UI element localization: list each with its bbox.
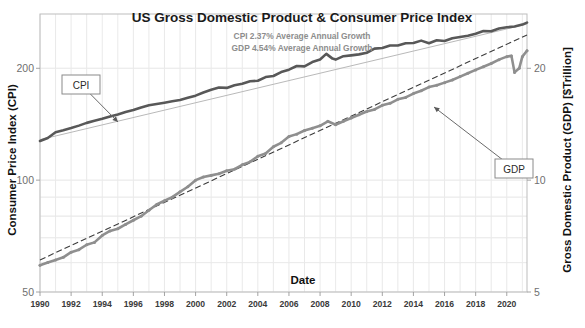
x-tick-label: 1998 <box>155 299 174 309</box>
chart-title: US Gross Domestic Product & Consumer Pri… <box>132 10 473 25</box>
x-tick-label: 1994 <box>93 299 112 309</box>
y-tick-label-right: 5 <box>534 286 540 298</box>
x-tick-label: 2018 <box>466 299 485 309</box>
callout-label: CPI <box>73 80 90 91</box>
x-tick-label: 2014 <box>404 299 423 309</box>
x-tick-label: 2012 <box>373 299 392 309</box>
y-axis-title-right: Gross Domestic Product (GDP) [$Trillion] <box>561 47 573 273</box>
x-tick-label: 2006 <box>279 299 298 309</box>
x-tick-label: 2010 <box>342 299 361 309</box>
chart-subtitle-gdp: GDP 4.54% Average Annual Growth <box>232 43 373 53</box>
chart-subtitle-cpi: CPI 2.37% Average Annual Growth <box>234 31 371 41</box>
x-tick-label: 1992 <box>62 299 81 309</box>
y-tick-label-left: 200 <box>16 62 34 74</box>
y-tick-label-left: 50 <box>22 286 34 298</box>
y-tick-label-right: 20 <box>534 62 546 74</box>
x-tick-label: 2020 <box>497 299 516 309</box>
x-tick-label: 1996 <box>124 299 143 309</box>
x-tick-label: 2000 <box>186 299 205 309</box>
x-tick-label: 2004 <box>248 299 267 309</box>
x-tick-label: 2002 <box>217 299 236 309</box>
y-tick-label-right: 10 <box>534 174 546 186</box>
x-axis-title: Date <box>291 274 316 286</box>
x-tick-label: 2008 <box>311 299 330 309</box>
x-tick-label: 1990 <box>30 299 49 309</box>
callout-label: GDP <box>503 164 525 175</box>
x-tick-label: 2016 <box>435 299 454 309</box>
y-tick-label-left: 100 <box>16 174 34 186</box>
y-axis-title-left: Consumer Price Index (CPI) <box>6 84 18 236</box>
gdp-cpi-line-chart: 1990199219941996199820002002200420062008… <box>0 0 585 328</box>
chart-container: 1990199219941996199820002002200420062008… <box>0 0 585 328</box>
